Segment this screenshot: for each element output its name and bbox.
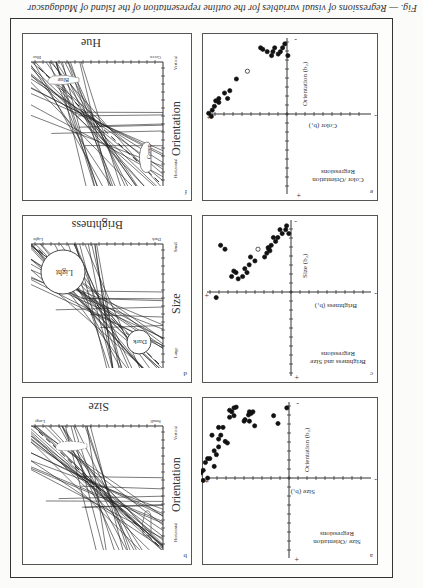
x-min-label: Small xyxy=(150,419,161,424)
plus-sign: + xyxy=(294,373,299,382)
x-axis-title: Size xyxy=(88,399,109,414)
x-axis-title: Hue xyxy=(81,35,101,50)
y-max-label: Horizontal xyxy=(173,159,178,178)
x-axis-label: Brightness (b₁) xyxy=(315,302,357,310)
x-max-label: Light xyxy=(33,237,43,242)
y-min-label: Vertical xyxy=(173,56,178,70)
plus-sign: + xyxy=(296,191,301,200)
panel-d-lines: DarkLight d Size Brightness Large Small … xyxy=(22,215,192,383)
figure-caption: Fig. — Regressions of visual variables f… xyxy=(0,3,423,14)
panel-f-plot: GreenBlue xyxy=(21,32,191,200)
panel-title: Size /Orientation Regressions xyxy=(307,530,367,546)
minus-sign: - xyxy=(294,217,297,226)
panel-b-plot xyxy=(21,396,191,564)
rotated-page: Fig. — Regressions of visual variables f… xyxy=(0,0,423,588)
minus-sign: - xyxy=(294,35,297,44)
panel-b-lines: b Orientation Size Horizontal Vertical S… xyxy=(22,397,192,565)
x-min-label: Dark xyxy=(152,237,161,242)
y-min-label: Horizontal xyxy=(173,523,178,542)
minus-sign: - xyxy=(374,111,377,120)
minus-sign: - xyxy=(296,399,299,408)
y-axis-label: Size (b₂) xyxy=(301,254,309,278)
svg-text:Blue: Blue xyxy=(57,77,69,83)
panel-title: Color /Orientation Regressions xyxy=(305,168,371,184)
svg-text:Green: Green xyxy=(146,144,152,159)
panel-d-plot: DarkLight xyxy=(21,214,191,382)
y-max-label: Vertical xyxy=(173,426,178,440)
y-axis-title: Orientation xyxy=(169,101,184,156)
x-axis-title: Brightness xyxy=(72,217,123,232)
x-axis-label: Size (b₁) xyxy=(291,488,315,496)
minus-sign: - xyxy=(374,289,377,298)
plus-sign: + xyxy=(204,291,209,300)
y-axis-label: Orientation (b₂) xyxy=(303,428,311,472)
y-max-label: Large xyxy=(173,348,178,358)
panel-f-lines: GreenBlue f Orientation Hue Horizontal V… xyxy=(22,33,192,201)
minus-sign: - xyxy=(374,475,377,484)
panel-label: f xyxy=(185,188,187,196)
y-axis-title: Size xyxy=(169,293,184,314)
figure-frame: a Size /Orientation Regressions Size (b₁… xyxy=(10,18,393,578)
x-axis-label: Color (b₁) xyxy=(309,122,337,130)
panel-c-scatter: c Brightness and Size Regressions Bright… xyxy=(202,215,378,383)
svg-text:Light: Light xyxy=(55,268,73,277)
panel-label: e xyxy=(370,188,373,196)
svg-text:Dark: Dark xyxy=(133,338,147,346)
plus-sign: + xyxy=(206,113,211,122)
panel-label: a xyxy=(370,552,373,560)
x-max-label: Blue xyxy=(33,55,42,60)
y-axis-title: Orientation xyxy=(169,457,184,512)
plus-sign: + xyxy=(294,555,299,564)
plus-sign: + xyxy=(204,477,209,486)
panel-a-scatter: a Size /Orientation Regressions Size (b₁… xyxy=(202,397,378,565)
x-min-label: Green xyxy=(150,55,161,60)
panel-label: b xyxy=(184,552,188,560)
panel-label: d xyxy=(184,370,188,378)
y-axis-label: Orientation (b₂) xyxy=(301,62,309,106)
panel-e-scatter: e Color /Orientation Regressions Color (… xyxy=(202,33,378,201)
panel-title: Brightness and Size Regressions xyxy=(303,350,373,366)
panel-label: c xyxy=(370,370,373,378)
y-min-label: Small xyxy=(173,241,178,252)
x-max-label: Large xyxy=(35,419,45,424)
